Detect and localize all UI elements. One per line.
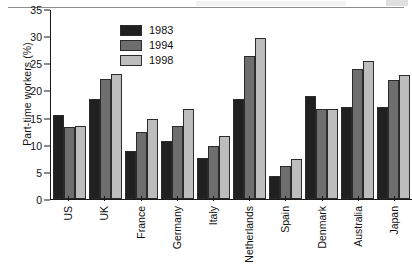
bar [172,126,183,199]
x-axis-labels: USUKFranceGermanyItalyNetherlandsSpainDe… [50,202,412,277]
x-axis-tick-mark [249,196,250,201]
bar [136,132,147,199]
page-header-smudge [196,1,346,6]
bar-group [268,10,304,199]
bar [399,75,410,199]
y-axis-tick-label: 15 [30,113,42,125]
bar [363,61,374,199]
y-axis-tick-label: 0 [36,194,42,206]
y-axis-tick-label: 5 [36,167,42,179]
legend-item: 1983 [120,24,173,36]
bar-group [231,10,267,199]
x-axis-tick-mark [394,196,395,201]
x-axis-tick-mark [104,196,105,201]
bar [89,99,100,199]
legend-item: 1998 [120,54,173,66]
bar [147,119,158,199]
x-axis-tick: Denmark [303,202,339,277]
legend-swatch [120,55,142,66]
bar [388,80,399,199]
bar-group [376,10,412,199]
legend-label: 1983 [149,24,173,36]
bar-groups [51,10,412,199]
bar [291,159,302,199]
x-axis-tick: France [122,202,158,277]
bar [244,56,255,199]
page-header-rule [8,7,404,8]
bar [100,79,111,200]
chart-legend: 198319941998 [120,24,173,66]
bar [64,127,75,199]
x-axis-tick-mark [213,196,214,201]
x-axis-tick: Italy [195,202,231,277]
x-axis-tick-mark [285,196,286,201]
x-axis-tick-label: Italy [207,206,219,225]
x-axis-tick: Germany [159,202,195,277]
bar [341,107,352,199]
bar-chart: Part-time workers (%) 05101520253035 USU… [0,10,412,277]
y-axis-ticks: 05101520253035 [0,10,52,205]
bar [111,74,122,199]
x-axis-tick: Japan [376,202,412,277]
bar [75,126,86,199]
x-axis-tick-mark [322,196,323,201]
bar [161,141,172,199]
bar [305,96,316,199]
x-axis-tick: Australia [340,202,376,277]
legend-swatch [120,40,142,51]
bar [219,136,230,199]
bar [53,115,64,199]
bar [280,166,291,199]
bar [377,107,388,199]
x-axis-tick-mark [358,196,359,201]
x-axis-tick-label: Spain [279,206,291,233]
bar [269,176,280,199]
bar [125,151,136,199]
x-axis-tick-label: France [135,206,147,239]
x-axis-tick-mark [68,196,69,201]
x-axis-tick-mark [177,196,178,201]
x-axis-tick: US [50,202,86,277]
legend-item: 1994 [120,39,173,51]
x-axis-tick-label: Japan [388,206,400,235]
legend-swatch [120,25,142,36]
x-axis-tick: UK [86,202,122,277]
bar-group [340,10,376,199]
bar-group [51,10,87,199]
bar-group [304,10,340,199]
x-axis-tick-label: Netherlands [243,206,255,263]
y-axis-tick-label: 10 [30,140,42,152]
bar [197,158,208,199]
bar-group [195,10,231,199]
x-axis-tick-mark [141,196,142,201]
bar [233,99,244,199]
bar [316,109,327,199]
x-axis-tick-label: Australia [352,206,364,247]
plot-area [50,10,412,200]
bar [327,109,338,199]
bar-group [87,10,123,199]
x-axis-tick: Spain [267,202,303,277]
x-axis-tick: Netherlands [231,202,267,277]
x-axis-tick-label: Denmark [316,206,328,249]
legend-label: 1994 [149,39,173,51]
bar [255,38,266,199]
page-folio-number [386,0,408,6]
y-axis-tick-label: 20 [30,85,42,97]
x-axis-tick-label: Germany [171,206,183,249]
bar [183,109,194,199]
bar [208,146,219,199]
bar [352,69,363,199]
y-axis-tick-label: 25 [30,58,42,70]
y-axis-tick-label: 30 [30,31,42,43]
legend-label: 1998 [149,54,173,66]
x-axis-tick-label: UK [98,206,110,221]
x-axis-tick-label: US [62,206,74,221]
y-axis-tick-label: 35 [30,4,42,16]
